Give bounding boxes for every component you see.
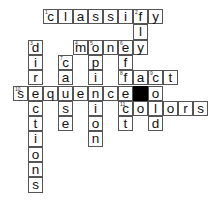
crossword-cell[interactable]: i xyxy=(118,9,133,24)
cell-letter: y xyxy=(149,10,162,24)
crossword-cell[interactable]: n xyxy=(103,40,118,55)
crossword-cell[interactable]: a xyxy=(133,70,148,85)
crossword-cell[interactable]: e xyxy=(28,86,43,101)
clue-number: 7 xyxy=(60,56,63,61)
crossword-cell[interactable]: t xyxy=(163,70,178,85)
cell-letter: c xyxy=(104,87,117,101)
cell-letter: e xyxy=(119,87,132,101)
cell-letter: i xyxy=(29,56,42,70)
crossword-cell[interactable]: i xyxy=(88,70,103,85)
crossword-cell[interactable]: 11c xyxy=(118,101,133,116)
cell-letter: o xyxy=(89,117,102,131)
crossword-cell[interactable]: l xyxy=(58,9,73,24)
clue-number: 5 xyxy=(90,41,93,46)
cell-letter: a xyxy=(134,71,147,85)
crossword-cell[interactable]: r xyxy=(178,101,193,116)
crossword-grid: 1classi2fyl3d4m5on6eyi7cpfrai8fa9ct10seq… xyxy=(0,0,220,204)
crossword-cell[interactable]: f xyxy=(118,55,133,70)
crossword-cell[interactable]: t xyxy=(28,116,43,131)
cell-letter: i xyxy=(29,132,42,146)
crossword-cell[interactable]: a xyxy=(58,70,73,85)
crossword-cell[interactable]: 6e xyxy=(118,40,133,55)
crossword-cell[interactable]: s xyxy=(58,101,73,116)
crossword-cell[interactable]: y xyxy=(148,9,163,24)
cell-letter: u xyxy=(59,87,72,101)
cell-letter: o xyxy=(134,102,147,116)
clue-number: 8 xyxy=(120,71,123,76)
crossword-cell[interactable]: 7c xyxy=(58,55,73,70)
crossword-cell[interactable]: 4m xyxy=(73,40,88,55)
crossword-cell[interactable]: 8f xyxy=(118,70,133,85)
clue-number: 10 xyxy=(15,87,21,92)
cell-letter: i xyxy=(119,10,132,24)
clue-number: 11 xyxy=(120,102,125,107)
crossword-cell[interactable]: l xyxy=(148,101,163,116)
crossword-cell[interactable]: n xyxy=(88,86,103,101)
crossword-cell[interactable]: y xyxy=(133,40,148,55)
crossword-cell[interactable]: n xyxy=(88,131,103,146)
crossword-cell[interactable]: l xyxy=(133,24,148,39)
crossword-cell[interactable]: o xyxy=(88,116,103,131)
crossword-cell[interactable]: c xyxy=(28,101,43,116)
cell-letter: r xyxy=(29,71,42,85)
crossword-cell[interactable]: s xyxy=(28,177,43,192)
crossword-cell[interactable]: q xyxy=(43,86,58,101)
cell-letter: p xyxy=(89,56,102,70)
cell-letter: q xyxy=(44,87,57,101)
crossword-cell[interactable]: r xyxy=(28,70,43,85)
crossword-cell[interactable]: a xyxy=(73,9,88,24)
cell-letter: s xyxy=(194,102,207,116)
crossword-cell[interactable]: s xyxy=(193,101,208,116)
crossword-cell[interactable]: i xyxy=(88,101,103,116)
crossword-cell[interactable]: e xyxy=(118,86,133,101)
cell-letter: o xyxy=(149,87,162,101)
cell-letter: r xyxy=(179,102,192,116)
crossword-cell[interactable]: o xyxy=(163,101,178,116)
cell-letter: o xyxy=(164,102,177,116)
cell-letter: n xyxy=(104,41,117,55)
cell-letter: f xyxy=(119,56,132,70)
cell-letter: e xyxy=(59,117,72,131)
crossword-cell[interactable]: o xyxy=(148,86,163,101)
cell-letter: a xyxy=(74,10,87,24)
cell-letter: l xyxy=(59,10,72,24)
crossword-cell[interactable]: i xyxy=(28,55,43,70)
crossword-cell[interactable]: 9c xyxy=(148,70,163,85)
crossword-cell[interactable]: t xyxy=(118,116,133,131)
crossword-cell[interactable]: i xyxy=(28,131,43,146)
cell-letter: y xyxy=(134,41,147,55)
crossword-cell[interactable]: o xyxy=(133,101,148,116)
crossword-cell[interactable]: e xyxy=(73,86,88,101)
cell-letter: e xyxy=(29,87,42,101)
crossword-cell[interactable]: n xyxy=(28,162,43,177)
crossword-cell[interactable]: c xyxy=(103,86,118,101)
crossword-cell[interactable]: s xyxy=(103,9,118,24)
crossword-cell[interactable]: o xyxy=(28,147,43,162)
cell-letter: t xyxy=(164,71,177,85)
cell-letter: s xyxy=(89,10,102,24)
cell-letter: o xyxy=(29,148,42,162)
cell-letter: c xyxy=(29,102,42,116)
crossword-cell[interactable]: d xyxy=(148,116,163,131)
black-square xyxy=(133,86,148,101)
crossword-cell[interactable]: e xyxy=(58,116,73,131)
cell-letter: n xyxy=(89,87,102,101)
crossword-cell[interactable]: s xyxy=(88,9,103,24)
clue-number: 1 xyxy=(45,10,48,15)
crossword-cell[interactable]: 10s xyxy=(13,86,28,101)
crossword-cell[interactable]: 2f xyxy=(133,9,148,24)
clue-number: 2 xyxy=(135,10,138,15)
cell-letter: d xyxy=(149,117,162,131)
crossword-cell[interactable]: p xyxy=(88,55,103,70)
crossword-cell[interactable]: 3d xyxy=(28,40,43,55)
crossword-cell[interactable]: 1c xyxy=(43,9,58,24)
clue-number: 9 xyxy=(150,71,153,76)
cell-letter: e xyxy=(74,87,87,101)
clue-number: 4 xyxy=(75,41,78,46)
cell-letter: a xyxy=(59,71,72,85)
crossword-cell[interactable]: 5o xyxy=(88,40,103,55)
clue-number: 3 xyxy=(30,41,33,46)
cell-letter: n xyxy=(89,132,102,146)
cell-letter: l xyxy=(134,25,147,39)
crossword-cell[interactable]: u xyxy=(58,86,73,101)
